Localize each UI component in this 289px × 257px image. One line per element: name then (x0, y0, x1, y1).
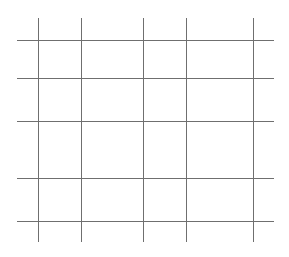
grid-horizontal-line (17, 221, 274, 222)
grid-horizontal-line (17, 121, 274, 122)
grid-horizontal-line (17, 78, 274, 79)
grid-horizontal-line (17, 178, 274, 179)
grid-vertical-line (143, 18, 144, 242)
grid (0, 0, 289, 257)
grid-vertical-line (81, 18, 82, 242)
grid-vertical-line (38, 18, 39, 242)
grid-horizontal-line (17, 40, 274, 41)
grid-vertical-line (253, 18, 254, 242)
grid-vertical-line (186, 18, 187, 242)
